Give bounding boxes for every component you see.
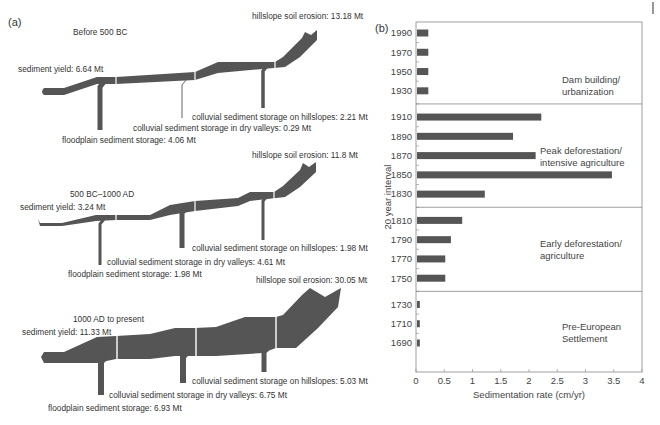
era-label-0-line-0: Dam building/ bbox=[562, 74, 620, 85]
sankey-500bc-1000ad: 500 BC–1000 AD sediment yield: 3.24 Mt h… bbox=[20, 150, 368, 279]
bar-1930 bbox=[417, 87, 428, 94]
y-tick-label-1850: 1850 bbox=[391, 169, 412, 180]
hillslope-erosion-label: hillslope soil erosion: 30.05 Mt bbox=[256, 275, 368, 285]
y-tick-label-1730: 1730 bbox=[391, 299, 412, 310]
era-label-1-line-1: intensive agriculture bbox=[540, 157, 625, 168]
floodplain-branch bbox=[101, 356, 106, 395]
y-tick-label-1790: 1790 bbox=[391, 234, 412, 245]
period-label: Before 500 BC bbox=[73, 27, 127, 37]
x-tick-label-2.5: 2.5 bbox=[551, 375, 564, 386]
x-tick-label-4: 4 bbox=[639, 375, 644, 386]
hillslope-branch bbox=[263, 66, 267, 108]
y-tick-label-1710: 1710 bbox=[391, 318, 412, 329]
valley-storage-label: colluvial sediment storage in dry valley… bbox=[107, 257, 286, 267]
era-label-2-line-0: Early deforestation/ bbox=[540, 238, 622, 249]
y-tick-label-1870: 1870 bbox=[391, 150, 412, 161]
bar-1790 bbox=[417, 236, 451, 243]
main-flow bbox=[42, 30, 317, 95]
period-label: 1000 AD to present bbox=[73, 314, 145, 324]
valley-storage-label: colluvial sediment storage in dry valley… bbox=[133, 123, 312, 133]
x-tick-label-1: 1 bbox=[470, 375, 475, 386]
y-tick-label-1690: 1690 bbox=[391, 337, 412, 348]
floodplain-storage-label: floodplain sediment storage: 4.06 Mt bbox=[62, 135, 196, 145]
valley-branch bbox=[183, 351, 188, 383]
y-tick-label-1830: 1830 bbox=[391, 188, 412, 199]
bar-1690 bbox=[417, 340, 420, 347]
bar-1910 bbox=[417, 114, 541, 121]
bar-1950 bbox=[417, 68, 428, 75]
y-tick-label-1930: 1930 bbox=[391, 85, 412, 96]
sediment-yield-label: sediment yield: 3.24 Mt bbox=[20, 202, 106, 212]
floodplain-branch bbox=[100, 219, 104, 265]
panel-a-label: (a) bbox=[8, 16, 21, 28]
sedimentation-rate-chart: (b) 199019701950193019101890187018501830… bbox=[375, 22, 645, 400]
bar-1850 bbox=[417, 171, 612, 178]
bar-1970 bbox=[417, 49, 428, 56]
figure: (a) Before 500 BC sediment yield: 6.64 M… bbox=[0, 0, 660, 425]
y-tick-label-1890: 1890 bbox=[391, 131, 412, 142]
hillslope-storage-label: colluvial sediment storage on hillslopes… bbox=[192, 243, 368, 253]
main-flow bbox=[41, 288, 341, 363]
bar-1870 bbox=[417, 152, 536, 159]
x-tick-label-1.5: 1.5 bbox=[494, 375, 507, 386]
hillslope-branch bbox=[264, 346, 270, 372]
bar-1990 bbox=[417, 30, 428, 37]
era-label-3-line-0: Pre-European bbox=[562, 321, 621, 332]
sankey-before-500bc: Before 500 BC sediment yield: 6.64 Mt hi… bbox=[18, 11, 368, 145]
hillslope-storage-label: colluvial sediment storage on hillslopes… bbox=[192, 376, 368, 386]
x-tick-label-3: 3 bbox=[583, 375, 588, 386]
y-tick-label-1950: 1950 bbox=[391, 66, 412, 77]
x-tick-label-2: 2 bbox=[526, 375, 531, 386]
era-label-1-line-0: Peak deforestation/ bbox=[540, 145, 622, 156]
bar-1750 bbox=[417, 275, 445, 282]
x-axis-label: Sedimentation rate (cm/yr) bbox=[473, 389, 585, 400]
valley-branch bbox=[182, 208, 186, 248]
bar-1890 bbox=[417, 133, 513, 140]
valley-branch bbox=[182, 80, 186, 118]
era-label-2-line-1: agriculture bbox=[540, 250, 584, 261]
bar-1710 bbox=[417, 320, 420, 327]
bar-1810 bbox=[417, 217, 462, 224]
y-tick-label-1810: 1810 bbox=[391, 215, 412, 226]
floodplain-storage-label: floodplain sediment storage: 1.98 Mt bbox=[68, 269, 202, 279]
y-tick-label-1990: 1990 bbox=[391, 27, 412, 38]
bar-1770 bbox=[417, 255, 445, 262]
floodplain-branch bbox=[100, 82, 104, 130]
y-tick-label-1910: 1910 bbox=[391, 111, 412, 122]
sediment-yield-label: sediment yield: 11.33 Mt bbox=[22, 327, 112, 337]
x-tick-label-0: 0 bbox=[413, 375, 418, 386]
hillslope-branch bbox=[263, 196, 267, 240]
era-label-0-line-1: urbanization bbox=[562, 86, 614, 97]
hillslope-storage-label: colluvial sediment storage on hillslopes… bbox=[192, 112, 368, 122]
y-tick-label-1770: 1770 bbox=[391, 253, 412, 264]
y-tick-label-1750: 1750 bbox=[391, 273, 412, 284]
hillslope-erosion-label: hillslope soil erosion: 11.8 Mt bbox=[252, 150, 359, 160]
period-label: 500 BC–1000 AD bbox=[70, 189, 134, 199]
y-tick-label-1970: 1970 bbox=[391, 47, 412, 58]
x-tick-label-0.5: 0.5 bbox=[438, 375, 451, 386]
valley-storage-label: colluvial sediment storage in dry valley… bbox=[109, 390, 288, 400]
panel-b-label: (b) bbox=[375, 22, 388, 34]
x-tick-label-3.5: 3.5 bbox=[607, 375, 620, 386]
bar-1730 bbox=[417, 301, 420, 308]
y-axis-label: 20 year interval bbox=[382, 165, 393, 230]
bar-1830 bbox=[417, 191, 485, 198]
sediment-yield-label: sediment yield: 6.64 Mt bbox=[18, 64, 104, 74]
hillslope-erosion-label: hillslope soil erosion: 13.18 Mt bbox=[252, 11, 364, 21]
sankey-1000ad-present: 1000 AD to present sediment yield: 11.33… bbox=[22, 275, 368, 413]
era-label-3-line-1: Settlement bbox=[562, 333, 608, 344]
floodplain-storage-label: floodplain sediment storage: 6.93 Mt bbox=[48, 403, 182, 413]
